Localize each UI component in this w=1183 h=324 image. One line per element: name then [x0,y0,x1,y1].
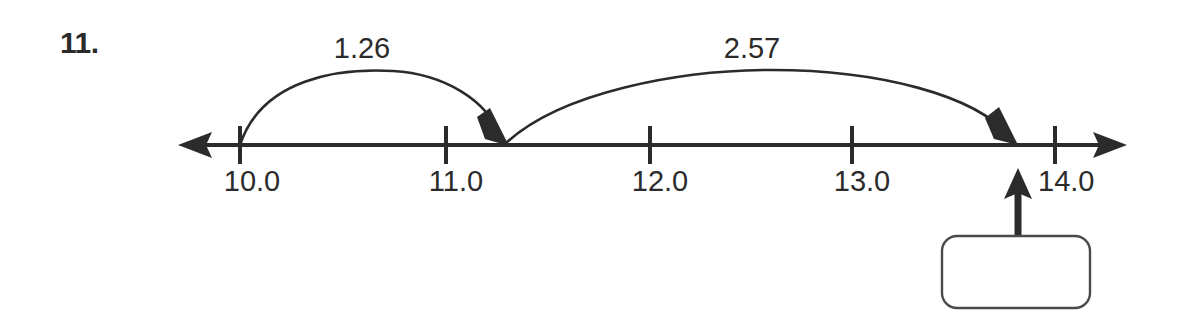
jump-label-1: 1.26 [334,32,390,64]
tick-label-12: 12.0 [632,165,688,197]
jump-arc-1-path [240,71,500,145]
jump-arc-1-arrowhead [477,108,509,146]
jump-arc-2-arrowhead [985,107,1018,145]
answer-pointer-arrow [1004,168,1032,238]
jump-arc-1 [240,71,509,146]
tick-label-10: 10.0 [224,165,280,197]
worksheet-page: 11. 1.26 2.57 10.0 11.0 12.0 13.0 [0,0,1183,324]
jump-arc-2-path [505,70,1009,144]
jump-arc-2 [505,70,1018,145]
number-line-figure: 1.26 2.57 10.0 11.0 12.0 13.0 14.0 [0,0,1183,324]
tick-label-13: 13.0 [834,165,890,197]
tick-label-14: 14.0 [1038,165,1094,197]
tick-label-11: 11.0 [429,165,483,197]
answer-input-box[interactable] [942,236,1090,308]
jump-label-2: 2.57 [724,32,780,64]
